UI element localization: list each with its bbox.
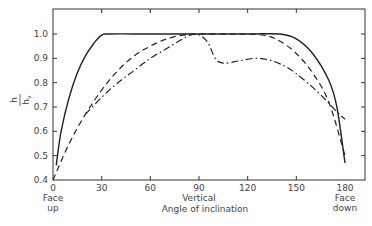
y-tick-label: 1.0 [34,29,49,39]
y-axis-ticks: 0.40.50.60.70.80.91.0 [34,29,365,185]
x-tick-label: 90 [193,183,205,193]
x-tick-label: 0 [50,183,56,193]
x-tick-label: 150 [288,183,305,193]
y-tick-label: 0.8 [34,78,49,88]
x-tick-label: 30 [96,183,108,193]
x-tick-label: 60 [145,183,157,193]
x-tick-label: 180 [336,183,353,193]
x-annotation: up [47,203,59,213]
svg-text:hv: hv [21,95,32,105]
x-axis-title: Angle of inclination [162,204,249,214]
line-chart: 0306090120150180 0.40.50.60.70.80.91.0 F… [0,0,372,226]
x-annotation: Face [43,193,64,203]
x-axis-ticks: 0306090120150180 [50,9,354,193]
y-axis-title: h hv [9,94,32,106]
y-tick-label: 0.7 [34,102,48,112]
x-annotation: down [333,203,357,213]
x-annotation: Face [335,193,356,203]
x-tick-label: 120 [239,183,256,193]
y-tick-label: 0.9 [34,53,49,63]
series-layer [53,34,345,180]
svg-text:h: h [9,97,19,103]
y-tick-label: 0.6 [34,126,49,136]
y-tick-label: 0.4 [34,175,49,185]
x-annotation: Vertical [182,193,216,203]
y-tick-label: 0.5 [34,151,48,161]
series-dashed-line [53,34,345,180]
